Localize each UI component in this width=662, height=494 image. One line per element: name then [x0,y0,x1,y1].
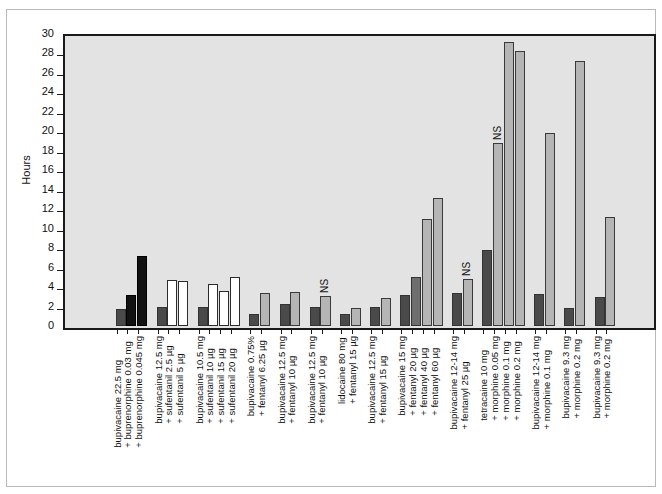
bar[interactable] [340,314,350,326]
x-axis-tick [341,330,342,334]
y-axis-tick-label: 24 [42,86,54,97]
bar[interactable] [260,293,270,326]
x-axis-tick [250,330,251,334]
x-axis-tick [281,330,282,334]
x-axis-label-line: + fentanyl 20 µg [407,336,418,416]
x-axis-label-line: bupivacaine 9.3 mg [560,336,571,418]
x-axis-tick [261,330,262,334]
bar[interactable] [381,298,391,326]
bar[interactable] [351,308,361,326]
x-axis-label-line: bupivacaine 15 mg [396,336,407,416]
y-axis-tick-label: 14 [42,184,54,195]
bar[interactable] [137,256,147,326]
bar[interactable] [482,250,492,326]
x-axis-label-line: bupivacaine 12.5 mg [153,336,164,424]
bar[interactable] [310,307,320,326]
x-axis-tick [382,330,383,334]
bar[interactable] [167,280,177,326]
y-axis-tick-label: 10 [42,223,54,234]
x-axis-tick [434,330,435,334]
chart-page: Hours 024681012141618202224262830 NSNSNS… [0,0,662,494]
bar[interactable] [575,61,585,326]
x-axis-label-line: bupivacaine 9.3 mg [591,336,602,418]
bar[interactable] [230,277,240,326]
x-axis-label-line: + sufentanil 2.5 µg [163,336,174,424]
bar[interactable] [595,297,605,326]
bar-group [370,38,391,326]
y-axis-tick-label: 28 [42,47,54,58]
x-axis-tick [220,330,221,334]
bar-group [249,38,270,326]
x-axis-label-line: + sufentanil 5 µg [174,336,185,424]
y-axis-tick-label: 16 [42,164,54,175]
x-axis-label-line: + morphine 0.1 mg [541,336,552,429]
x-axis-tick [423,330,424,334]
bar[interactable] [534,294,544,326]
x-axis-tick [199,330,200,334]
bar[interactable] [126,295,136,326]
bar[interactable] [504,42,514,326]
x-axis-tick [209,330,210,334]
x-axis-tick [179,330,180,334]
x-axis-label-line: bupivacaine 10.5 mg [194,336,205,424]
bar[interactable] [157,307,167,326]
bar[interactable] [280,304,290,326]
x-axis-tick [352,330,353,334]
bar[interactable] [452,293,462,326]
x-axis-group-label: bupivacaine 9.3 mg+ morphine 0.2 mg [560,336,582,418]
x-axis-label-line: bupivacaine 12.5 mg [306,336,317,424]
bar[interactable] [411,277,421,326]
bar[interactable] [178,281,188,326]
bar[interactable] [515,51,525,326]
bar[interactable] [463,279,473,326]
x-axis-group-label: lidocaine 80 mg+ fentanyl 15 µg [336,336,358,404]
x-axis-label-line: + buprenorphine 0.03 mg [122,336,133,448]
bar[interactable] [433,198,443,326]
x-axis-label-line: + fentanyl 40 µg [418,336,429,416]
x-axis-tick [546,330,547,334]
x-axis-group-label: bupivacaine 12-14 mg+ morphine 0.1 mg [530,336,552,429]
bar[interactable] [116,309,126,326]
bar[interactable] [290,292,300,326]
y-axis-tick-label: 0 [48,320,54,331]
x-axis-tick [464,330,465,334]
x-axis-label-line: + sufentanil 15 µg [215,336,226,424]
bar-group [534,38,555,326]
bar[interactable] [493,143,503,326]
x-axis-tick [505,330,506,334]
plot-area: NSNSNS [63,34,656,330]
ns-annotation: NS [319,279,330,293]
bar[interactable] [545,133,555,326]
bar[interactable] [422,219,432,326]
x-axis-label-line: + fentanyl 25 µg [459,336,470,429]
x-axis-tick [576,330,577,334]
bar[interactable] [219,291,229,326]
x-axis-group-label: tetracaine 10 mg+ morphine 0.05 mg+ morp… [478,336,521,421]
figure-frame: Hours 024681012141618202224262830 NSNSNS… [6,9,656,487]
bar[interactable] [208,284,218,326]
x-axis-label-line: + sufentanil 10 µg [204,336,215,424]
bar[interactable] [249,314,259,326]
x-axis-label-line: bupivacaine 12-14 mg [530,336,541,429]
y-axis-tick-label: 22 [42,106,54,117]
y-axis-tick-label: 12 [42,203,54,214]
bar-group [116,38,148,326]
bar[interactable] [400,295,410,326]
x-axis-tick [231,330,232,334]
bar-group [564,38,585,326]
x-axis-label-line: + buprenorphine 0.045 mg [133,336,144,448]
x-axis-tick [322,330,323,334]
bar[interactable] [198,307,208,326]
bars-container: NSNSNS [67,38,652,326]
y-axis-tick-label: 8 [48,242,54,253]
x-axis-label-line: bupivacaine 12.5 mg [276,336,287,424]
x-axis-tick [127,330,128,334]
x-axis-ticks [63,330,656,334]
bar[interactable] [370,307,380,326]
bar-group [280,38,301,326]
bar[interactable] [320,296,330,326]
x-axis-label-line: + fentanyl 10 µg [316,336,327,424]
bar[interactable] [605,217,615,326]
y-axis-tick-label: 2 [48,301,54,312]
bar[interactable] [564,308,574,326]
